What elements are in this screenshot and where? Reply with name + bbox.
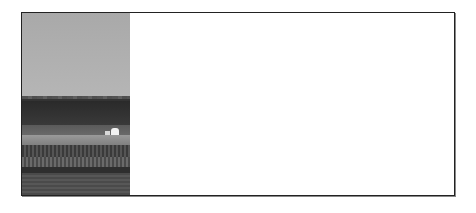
landscape-photo — [22, 13, 130, 195]
photo-crop-rows — [22, 145, 130, 157]
photo-barn — [111, 128, 119, 135]
photo-ground — [22, 173, 130, 195]
blank-panel — [130, 13, 454, 195]
photo-light-field — [22, 135, 130, 145]
photo-crop-rows-2 — [22, 157, 130, 167]
photo-sky — [22, 13, 130, 101]
page-frame — [21, 12, 455, 196]
photo-shed — [105, 131, 110, 135]
